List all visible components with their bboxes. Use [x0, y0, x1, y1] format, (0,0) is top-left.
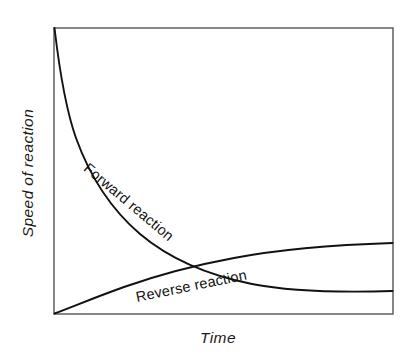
equilibrium-reaction-rate-chart: Speed of reaction Time Forward reaction …	[0, 0, 416, 357]
plot-area	[0, 0, 416, 357]
chart-background	[0, 0, 416, 357]
x-axis-label: Time	[178, 329, 258, 347]
y-axis-label: Speed of reaction	[16, 96, 38, 251]
